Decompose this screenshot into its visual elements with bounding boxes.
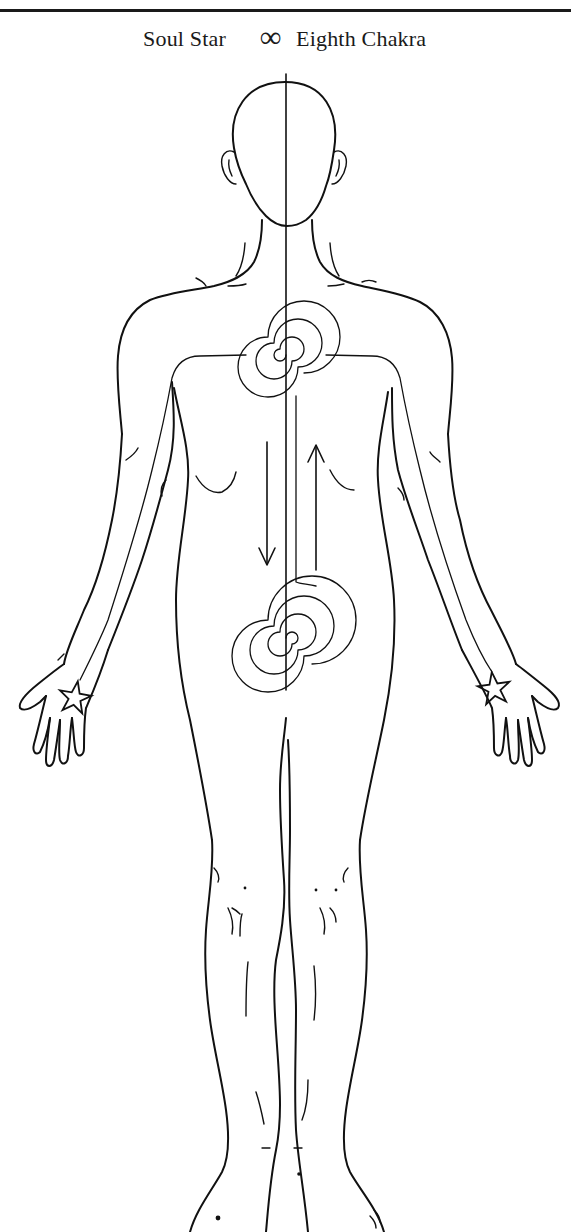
right-hand [462,650,559,766]
lower-spiral-icon [232,576,356,692]
left-arm-energy-line [80,355,246,680]
head [222,82,347,226]
right-palm-star-icon [476,670,512,705]
left-palm-star-icon [57,678,94,714]
connector-line [296,396,316,586]
body-illustration [0,0,571,1232]
right-arm-energy-line [326,355,492,672]
up-arrow-icon [308,445,324,570]
down-arrow-icon [259,442,275,565]
heart-spiral-icon [238,301,340,397]
legs [190,718,384,1232]
torso [64,220,516,840]
